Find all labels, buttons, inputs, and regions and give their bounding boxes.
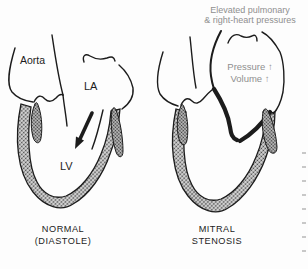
top-annotation-line2: & right-heart pressures bbox=[194, 15, 306, 25]
aorta-right-wall bbox=[190, 37, 196, 88]
enlarged-atrium-top-wall bbox=[228, 35, 257, 43]
mitral-valve-leaflet bbox=[111, 108, 123, 157]
left-atrium-right-wall bbox=[119, 65, 133, 109]
pressure-up-text: Pressure ↑ bbox=[208, 61, 292, 73]
top-annotation-line1: Elevated pulmonary bbox=[194, 5, 306, 15]
atrium-pressure-volume-note: Pressure ↑ Volume ↑ bbox=[208, 61, 292, 85]
aorta-right-wall bbox=[52, 35, 63, 95]
blood-flow-arrow bbox=[75, 113, 92, 149]
aortic-sinus-scallop bbox=[34, 94, 63, 102]
aortic-valve-leaflet bbox=[31, 103, 42, 143]
volume-up-text: Volume ↑ bbox=[208, 73, 292, 85]
left-ventricle-label: LV bbox=[60, 160, 73, 172]
normal-caption-line1: NORMAL bbox=[13, 224, 113, 236]
open-anterior-mitral-leaflet-line bbox=[92, 110, 103, 149]
left-atrium-top-wall bbox=[83, 55, 115, 62]
aorta-atrium-divider-line bbox=[63, 95, 67, 126]
aorta-left-wall bbox=[157, 52, 178, 106]
figure-canvas: Elevated pulmonary & right-heart pressur… bbox=[0, 0, 308, 269]
aortic-sinus-scallop bbox=[181, 89, 213, 105]
stenosis-heart-drawing bbox=[157, 31, 284, 212]
stenosis-caption-line1: MITRAL bbox=[167, 224, 267, 236]
top-annotation: Elevated pulmonary & right-heart pressur… bbox=[194, 5, 306, 25]
thickened-mitral-leaflet-left bbox=[214, 89, 237, 140]
normal-caption-line2: (DIASTOLE) bbox=[13, 236, 113, 248]
stenosis-heart-caption: MITRAL STENOSIS bbox=[167, 224, 267, 247]
left-atrium-label: LA bbox=[84, 80, 97, 92]
normal-heart-caption: NORMAL (DIASTOLE) bbox=[13, 224, 113, 247]
adjacent-column-text-fragments bbox=[302, 152, 306, 260]
aortic-valve-leaflet bbox=[177, 105, 188, 145]
stenosis-caption-line2: STENOSIS bbox=[167, 236, 267, 248]
aorta-label: Aorta bbox=[20, 54, 45, 66]
